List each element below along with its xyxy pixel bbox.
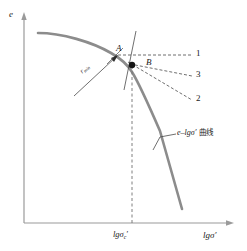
y-axis-arrow: [21, 12, 26, 20]
e-lg-sigma-curve: [38, 33, 182, 209]
x-axis-arrow: [226, 220, 234, 225]
point-label-B: B: [146, 58, 152, 67]
curve-label-chinese: 曲线: [199, 128, 213, 137]
x-tick-base: lgσ: [113, 229, 124, 239]
x-tick-prime: ′: [126, 229, 128, 239]
construction-lines-group: [74, 31, 192, 223]
curve-label-math: e–lgσ′: [177, 128, 196, 137]
construction-steep-line: [124, 31, 136, 90]
figure-canvas: e lgσ′ lgσc′ A B 1 3 2 rmin e–lgσ′曲线: [0, 0, 247, 251]
ray-label-2: 2: [196, 94, 201, 103]
x-axis-label: lgσ′: [203, 231, 216, 240]
y-axis-label: e: [9, 10, 13, 19]
radius-leader-line: [74, 56, 117, 96]
axes-group: [21, 12, 234, 226]
x-axis-tick-label: lgσc′: [113, 230, 128, 240]
compression-curve-group: [38, 33, 182, 209]
minimum-radius-point-dot: [129, 62, 135, 68]
curve-label: e–lgσ′曲线: [177, 129, 213, 137]
ray-label-3: 3: [196, 70, 201, 79]
ray-label-1: 1: [196, 49, 201, 58]
point-label-A: A: [116, 44, 122, 53]
ray-3-bisector: [130, 64, 192, 76]
diagram-svg: [0, 0, 247, 251]
